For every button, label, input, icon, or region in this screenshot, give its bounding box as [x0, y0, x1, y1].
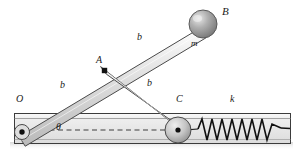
- figure-canvas: O A B C m k θ b b b: [0, 0, 293, 150]
- label-length-AB: b: [137, 32, 142, 42]
- label-point-C: C: [176, 94, 183, 104]
- slider-C: [165, 117, 191, 143]
- label-length-OA: b: [60, 80, 65, 90]
- label-spring-constant-k: k: [230, 94, 234, 104]
- label-point-O: O: [16, 94, 23, 104]
- label-point-B: B: [222, 6, 229, 17]
- joint-A-marker: [102, 68, 107, 73]
- label-length-AC: b: [147, 78, 152, 88]
- label-point-A: A: [96, 55, 102, 65]
- mechanism-diagram-svg: [0, 0, 293, 150]
- ball-B: [189, 10, 217, 38]
- label-mass-m: m: [191, 39, 198, 48]
- pivot-O: [15, 125, 30, 140]
- label-angle-theta: θ: [56, 122, 61, 132]
